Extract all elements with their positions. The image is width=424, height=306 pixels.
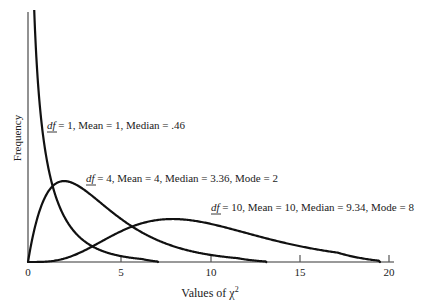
x-axis-label: Values of χ2 xyxy=(181,285,238,300)
annotation-df-4: df = 4, Mean = 4, Median = 3.36, Mode = … xyxy=(86,172,278,185)
chi-square-chart: 0 5 10 15 20 Frequency Values of χ2 df =… xyxy=(0,0,424,306)
x-tick-label-10: 10 xyxy=(206,266,218,278)
x-axis-label-text: Values of χ xyxy=(181,286,235,300)
annotation-df-4-text: = 4, Mean = 4, Median = 3.36, Mode = 2 xyxy=(95,172,278,184)
svg-text:df = 4, Mean = 4, Median = 3.3: df = 4, Mean = 4, Median = 3.36, Mode = … xyxy=(86,172,278,184)
x-axis-label-superscript: 2 xyxy=(235,285,239,294)
x-tick-label-0: 0 xyxy=(25,266,31,278)
x-tick-label-15: 15 xyxy=(295,266,307,278)
curve-df-1 xyxy=(28,0,158,262)
x-tick-label-20: 20 xyxy=(384,266,396,278)
annotation-df-10-text: = 10, Mean = 10, Median = 9.34, Mode = 8 xyxy=(220,201,415,213)
curve-df-10 xyxy=(28,219,380,262)
x-tick-label-5: 5 xyxy=(118,266,124,278)
curves-group xyxy=(28,0,380,262)
annotation-df-1: df = 1, Mean = 1, Median = .46 xyxy=(47,119,186,132)
annotation-df-1-text: = 1, Mean = 1, Median = .46 xyxy=(56,119,186,131)
y-axis-label: Frequency xyxy=(11,114,23,161)
svg-text:df = 1, Mean = 1, Median = .46: df = 1, Mean = 1, Median = .46 xyxy=(47,119,186,131)
svg-text:df = 10, Mean = 10, Median = 9: df = 10, Mean = 10, Median = 9.34, Mode … xyxy=(211,201,414,213)
annotation-df-10: df = 10, Mean = 10, Median = 9.34, Mode … xyxy=(211,201,414,214)
